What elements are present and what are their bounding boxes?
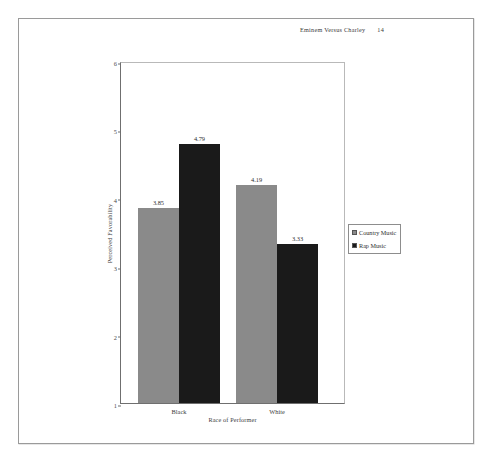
y-axis-tick-1: 1 (114, 402, 121, 409)
bar-group-white: 4.193.33White (236, 185, 318, 403)
bar-black-rap: 4.79 (179, 144, 220, 403)
bar-white-country: 4.19 (236, 185, 277, 403)
figure-caption (20, 455, 320, 467)
legend-swatch-icon (352, 230, 357, 235)
y-axis-title: Perceived Favorability (104, 62, 116, 404)
bar-value-label: 3.33 (292, 235, 303, 242)
legend-swatch-icon (352, 243, 357, 248)
chart-legend: Country MusicRap Music (348, 224, 401, 254)
y-axis-tick-6: 6 (114, 60, 121, 67)
x-axis-category-black: Black (172, 408, 187, 415)
plot-area: 1234563.854.79Black4.193.33White (120, 62, 345, 404)
legend-item-label: Rap Music (359, 242, 386, 249)
legend-item-rap-music: Rap Music (352, 242, 397, 249)
bar-white-rap: 3.33 (277, 244, 318, 403)
x-axis-category-white: White (269, 408, 285, 415)
bar-group-black: 3.854.79Black (138, 144, 220, 403)
legend-item-label: Country Music (359, 229, 396, 236)
bar-value-label: 4.79 (194, 135, 205, 142)
bar-chart-figure: Perceived Favorability 1234563.854.79Bla… (18, 18, 474, 444)
bar-black-country: 3.85 (138, 208, 179, 403)
y-axis-tick-5: 5 (114, 128, 121, 135)
bar-value-label: 4.19 (251, 176, 262, 183)
y-axis-tick-2: 2 (114, 333, 121, 340)
x-axis-title: Race of Performer (120, 416, 345, 423)
y-axis-tick-3: 3 (114, 265, 121, 272)
bar-value-label: 3.85 (153, 199, 164, 206)
legend-item-country-music: Country Music (352, 229, 397, 236)
y-axis-tick-4: 4 (114, 196, 121, 203)
